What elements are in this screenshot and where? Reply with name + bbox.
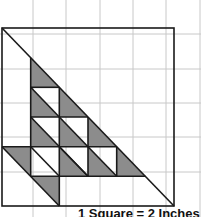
quilt-diagram [0,0,201,217]
block-outline [2,28,174,206]
scale-caption: 1 Square = 2 Inches [78,207,200,217]
